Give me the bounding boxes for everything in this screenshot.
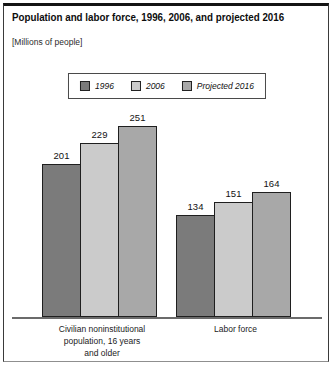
- bar-1996: 201: [42, 164, 81, 317]
- category-label-line: and older: [30, 347, 174, 359]
- bar-value-label: 201: [43, 150, 80, 161]
- plot-area: 201229251Civilian noninstitutionalpopula…: [0, 0, 334, 365]
- bar-projected-2016: 164: [252, 192, 291, 317]
- category-label-line: Labor force: [177, 323, 294, 335]
- category-label-line: population, 16 years: [30, 335, 174, 347]
- bar-value-label: 229: [81, 129, 118, 140]
- category-label: Civilian noninstitutionalpopulation, 16 …: [30, 323, 174, 359]
- bar-group: 201229251: [42, 126, 156, 317]
- bar-2006: 151: [214, 202, 253, 317]
- bar-value-label: 134: [177, 201, 214, 212]
- bar-value-label: 164: [253, 178, 290, 189]
- category-label: Labor force: [177, 323, 294, 335]
- bar-value-label: 251: [119, 112, 156, 123]
- category-label-line: Civilian noninstitutional: [30, 323, 174, 335]
- bar-value-label: 151: [215, 188, 252, 199]
- bar-1996: 134: [176, 215, 215, 317]
- bar-group: 134151164: [176, 192, 290, 317]
- x-axis-line: [12, 317, 322, 319]
- bar-2006: 229: [80, 143, 119, 317]
- chart-figure: Population and labor force, 1996, 2006, …: [0, 0, 334, 365]
- bar-projected-2016: 251: [118, 126, 157, 317]
